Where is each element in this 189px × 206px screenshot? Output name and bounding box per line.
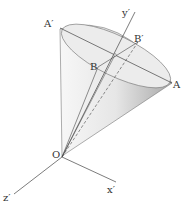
- label-z-prime: z′: [3, 193, 11, 203]
- label-A-prime: A′: [44, 19, 54, 29]
- label-B: B: [90, 62, 97, 72]
- z-axis: [14, 157, 62, 194]
- label-y-prime: y′: [122, 8, 130, 18]
- center-point: [114, 54, 117, 57]
- label-x-prime: x′: [107, 185, 115, 195]
- cone-diagram: A′ A B B′ O y′ x′ z′: [0, 0, 189, 206]
- cone-figure: [0, 0, 189, 206]
- x-axis: [62, 157, 116, 182]
- label-A: A: [173, 80, 180, 90]
- label-O: O: [52, 150, 60, 160]
- label-B-prime: B′: [134, 34, 144, 44]
